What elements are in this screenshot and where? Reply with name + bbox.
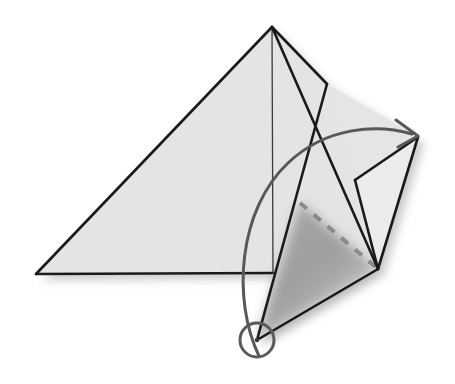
pivot-dot-icon bbox=[255, 338, 259, 342]
edge-left-base-to-base bbox=[36, 273, 273, 274]
figure-canvas bbox=[0, 0, 455, 384]
diagram-page: { "figure": { "title": "Tetrahedron fold… bbox=[0, 0, 455, 384]
